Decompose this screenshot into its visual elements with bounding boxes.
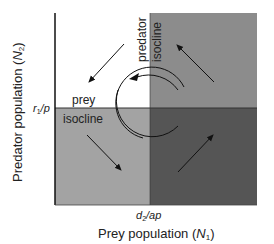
quadrant-bottom-right [150,108,257,205]
phase-plane-diagram: prey isocline predator isocline r1/p d2/… [0,0,274,244]
x-tick-label: d2/ap [136,209,161,222]
predator-isocline-label-line2: isocline [150,22,164,62]
y-axis-label: Predator population (N2) [10,42,26,182]
x-axis-label: Prey population (N1) [98,226,214,242]
quadrant-top-right [150,13,257,108]
predator-isocline-label-line1: predator [135,17,149,62]
prey-isocline-label-line2: isocline [63,112,103,126]
prey-isocline-label-line1: prey [72,93,95,107]
y-tick-label: r1/p [33,102,50,115]
